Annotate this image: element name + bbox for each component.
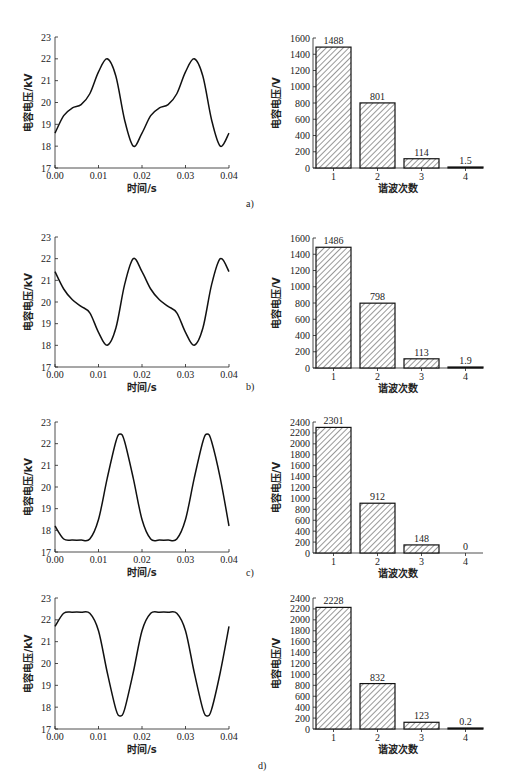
x-tick-label: 1 (331, 556, 336, 567)
y-tick-label: 1000 (290, 669, 310, 680)
y-tick-label: 200 (295, 713, 310, 724)
y-tick-label: 400 (295, 130, 310, 141)
y-tick-label: 1600 (290, 233, 310, 244)
x-tick-label: 0.02 (133, 170, 151, 181)
x-tick-label: 0.02 (133, 731, 151, 742)
bar-harmonic-1 (316, 47, 351, 168)
bar-value-label: 912 (370, 491, 385, 502)
y-tick-label: 19 (41, 503, 51, 514)
x-tick-label: 2 (375, 371, 380, 382)
panel-label-a: a) (246, 198, 254, 209)
y-tick-label: 1200 (290, 658, 310, 669)
y-tick-label: 1600 (290, 460, 310, 471)
y-tick-label: 2200 (290, 603, 310, 614)
y-tick-label: 19 (41, 318, 51, 329)
y-tick-label: 20 (41, 97, 51, 108)
voltage-curve (55, 59, 229, 147)
bar-value-label: 123 (414, 710, 429, 721)
y-tick-label: 2200 (290, 427, 310, 438)
x-axis-label: 时间/s (127, 743, 157, 755)
bar-chart-c-bar: 0200400600800100012001400160018002000220… (270, 415, 483, 579)
y-axis-label: 电容电压/kV (22, 273, 34, 331)
y-tick-label: 2000 (290, 614, 310, 625)
x-axis-label: 时间/s (127, 381, 157, 393)
x-axis-label: 谐波次数 (378, 182, 419, 194)
x-tick-label: 3 (419, 171, 424, 182)
y-tick-label: 0 (305, 363, 310, 374)
x-tick-label: 0.00 (46, 554, 64, 565)
y-tick-label: 21 (41, 75, 51, 86)
y-tick-label: 21 (41, 275, 51, 286)
x-tick-label: 0.01 (90, 731, 108, 742)
x-tick-label: 0.02 (133, 554, 151, 565)
y-tick-label: 0 (305, 724, 310, 735)
x-tick-label: 0.04 (220, 170, 238, 181)
bar-harmonic-4 (448, 167, 483, 168)
y-tick-label: 19 (41, 119, 51, 130)
x-tick-label: 1 (331, 732, 336, 743)
x-tick-label: 0.04 (220, 554, 238, 565)
y-tick-label: 1200 (290, 65, 310, 76)
y-tick-label: 22 (41, 438, 51, 449)
x-axis-label: 谐波次数 (378, 743, 419, 755)
y-axis-label: 电容电压/V (270, 77, 282, 129)
y-tick-label: 22 (41, 53, 51, 64)
y-tick-label: 800 (295, 98, 310, 109)
y-tick-label: 1400 (290, 471, 310, 482)
bar-harmonic-2 (360, 303, 395, 368)
y-tick-label: 600 (295, 515, 310, 526)
x-tick-label: 2 (375, 556, 380, 567)
y-axis-label: 电容电压/V (270, 462, 282, 514)
y-tick-label: 22 (41, 614, 51, 625)
x-tick-label: 1 (331, 371, 336, 382)
bar-chart-b-bar: 0200400600800100012001400160014861798211… (270, 233, 483, 395)
bar-harmonic-1 (316, 607, 351, 729)
y-tick-label: 1600 (290, 636, 310, 647)
x-tick-label: 4 (463, 556, 468, 567)
bar-value-label: 801 (370, 91, 385, 102)
bar-value-label: 0 (463, 541, 468, 552)
x-tick-label: 0.03 (177, 731, 195, 742)
x-tick-label: 0.04 (220, 369, 238, 380)
y-tick-label: 800 (295, 504, 310, 515)
bar-value-label: 2301 (324, 415, 344, 426)
y-tick-label: 22 (41, 253, 51, 264)
x-tick-label: 0.01 (90, 170, 108, 181)
x-tick-label: 0.03 (177, 369, 195, 380)
bar-harmonic-3 (404, 359, 439, 368)
y-tick-label: 0 (305, 548, 310, 559)
panel-label-b: b) (246, 381, 254, 392)
x-tick-label: 0.01 (90, 554, 108, 565)
x-tick-label: 4 (463, 371, 468, 382)
x-axis-label: 谐波次数 (378, 382, 419, 394)
y-axis-label: 电容电压/kV (22, 458, 34, 516)
line-chart-a-line: 171819202122230.000.010.020.030.04时间/s电容… (22, 32, 238, 195)
y-tick-label: 1200 (290, 265, 310, 276)
bar-value-label: 1486 (324, 235, 344, 246)
bar-harmonic-3 (404, 545, 439, 553)
y-tick-label: 400 (295, 330, 310, 341)
y-tick-label: 2400 (290, 593, 310, 604)
bar-value-label: 832 (370, 672, 385, 683)
bar-value-label: 798 (370, 291, 385, 302)
y-tick-label: 1600 (290, 33, 310, 44)
y-tick-label: 23 (41, 417, 51, 428)
y-tick-label: 18 (41, 702, 51, 713)
voltage-curve (55, 434, 229, 541)
y-tick-label: 200 (295, 537, 310, 548)
y-tick-label: 1200 (290, 482, 310, 493)
x-tick-label: 4 (463, 171, 468, 182)
x-tick-label: 0.00 (46, 731, 64, 742)
y-tick-label: 1000 (290, 81, 310, 92)
bar-chart-a-bar: 0200400600800100012001400160014881801211… (270, 33, 483, 195)
line-chart-c-line: 171819202122230.000.010.020.030.04时间/s电容… (22, 417, 238, 579)
y-tick-label: 21 (41, 636, 51, 647)
bar-value-label: 0.2 (459, 716, 472, 727)
y-axis-label: 电容电压/kV (22, 73, 34, 131)
y-tick-label: 1000 (290, 493, 310, 504)
y-tick-label: 20 (41, 297, 51, 308)
bar-value-label: 2228 (324, 595, 344, 606)
x-tick-label: 2 (375, 732, 380, 743)
y-tick-label: 800 (295, 298, 310, 309)
x-axis-label: 时间/s (127, 566, 157, 578)
